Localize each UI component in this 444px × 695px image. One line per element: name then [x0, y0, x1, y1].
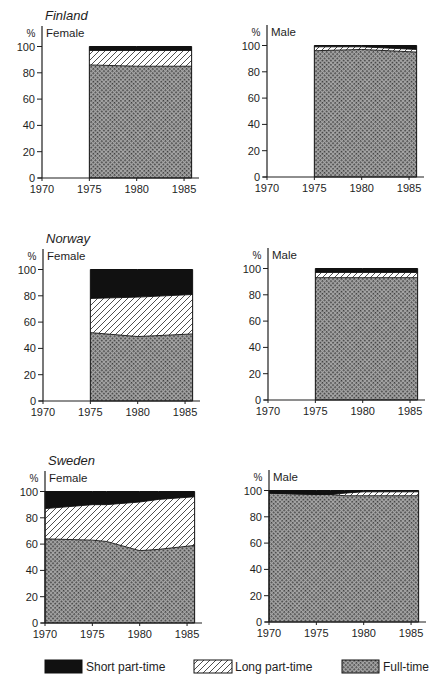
- y-tick-label: 80: [24, 290, 36, 302]
- long-part-time-area: [90, 294, 192, 336]
- x-tick-label: 1975: [78, 406, 102, 418]
- x-tick-label: 1970: [257, 627, 281, 639]
- x-tick-label: 1985: [172, 183, 196, 195]
- y-tick-label: 40: [250, 563, 262, 575]
- x-tick-label: 1985: [398, 405, 422, 417]
- full-time-area: [315, 278, 417, 400]
- x-tick-label: 1980: [127, 628, 151, 640]
- long-part-time-area: [89, 50, 191, 66]
- full-time-area: [314, 49, 416, 177]
- panel-country-title: Finland: [45, 8, 88, 23]
- y-tick-label: 60: [249, 315, 261, 327]
- y-axis-unit: %: [27, 28, 36, 39]
- x-tick-label: 1970: [30, 183, 54, 195]
- x-tick-label: 1980: [351, 627, 375, 639]
- y-tick-label: 80: [248, 66, 260, 78]
- y-tick-label: 40: [26, 564, 38, 576]
- y-tick-label: 60: [24, 316, 36, 328]
- x-tick-label: 1985: [173, 406, 197, 418]
- chart-panels: 0204060801001970197519801985%FemaleFinla…: [17, 8, 426, 640]
- legend-item-full-time: Full-time: [342, 660, 429, 674]
- y-axis-unit: %: [28, 251, 37, 262]
- x-tick-label: 1970: [255, 182, 279, 194]
- panel-subtitle: Male: [271, 26, 296, 38]
- long-part-time-area: [315, 272, 417, 277]
- x-tick-label: 1975: [77, 183, 101, 195]
- panel-subtitle: Male: [273, 471, 298, 483]
- chart-panel-norway-female: 0204060801001970197519801985%FemaleNorwa…: [18, 231, 200, 418]
- panel-subtitle: Female: [49, 472, 87, 484]
- chart-panel-sweden-male: 0204060801001970197519801985%Male: [244, 470, 426, 639]
- y-tick-label: 40: [248, 118, 260, 130]
- y-tick-label: 100: [244, 485, 262, 497]
- y-tick-label: 60: [250, 537, 262, 549]
- x-tick-label: 1975: [304, 627, 328, 639]
- x-tick-label: 1970: [33, 628, 57, 640]
- x-tick-label: 1980: [350, 405, 374, 417]
- legend-label-full-time: Full-time: [383, 660, 429, 674]
- y-tick-label: 20: [23, 146, 35, 158]
- x-tick-label: 1980: [124, 183, 148, 195]
- y-axis-unit: %: [253, 250, 262, 261]
- x-tick-label: 1975: [80, 628, 104, 640]
- y-tick-label: 80: [250, 511, 262, 523]
- short-part-time-swatch: [45, 660, 82, 673]
- x-tick-label: 1985: [399, 627, 423, 639]
- y-tick-label: 80: [26, 512, 38, 524]
- y-axis-unit: %: [30, 473, 39, 484]
- y-tick-label: 80: [23, 67, 35, 79]
- chart-panel-sweden-female: 0204060801001970197519801985%FemaleSwede…: [20, 453, 202, 640]
- panel-country-title: Sweden: [48, 453, 95, 468]
- chart-panel-finland-male: 0204060801001970197519801985%Male: [242, 25, 424, 194]
- x-tick-label: 1970: [31, 406, 55, 418]
- legend-item-short-part-time: Short part-time: [45, 660, 166, 674]
- x-tick-label: 1985: [397, 182, 421, 194]
- y-tick-label: 100: [242, 40, 260, 52]
- y-axis-unit: %: [254, 472, 263, 483]
- y-tick-label: 100: [243, 263, 261, 275]
- y-tick-label: 20: [250, 590, 262, 602]
- x-tick-label: 1985: [175, 628, 199, 640]
- panel-subtitle: Female: [47, 250, 85, 262]
- legend: Short part-time Long part-time Full-time: [45, 660, 429, 674]
- x-tick-label: 1970: [256, 405, 280, 417]
- y-tick-label: 60: [26, 538, 38, 550]
- full-time-area: [90, 333, 192, 401]
- legend-label-short-part-time: Short part-time: [86, 660, 166, 674]
- employment-charts-figure: 0204060801001970197519801985%FemaleFinla…: [0, 0, 444, 695]
- panel-subtitle: Female: [46, 27, 84, 39]
- panel-country-title: Norway: [46, 231, 92, 246]
- legend-label-long-part-time: Long part-time: [235, 660, 313, 674]
- y-tick-label: 40: [249, 341, 261, 353]
- long-part-time-swatch: [194, 660, 232, 673]
- y-tick-label: 20: [248, 145, 260, 157]
- y-tick-label: 100: [20, 486, 38, 498]
- y-tick-label: 60: [23, 93, 35, 105]
- y-tick-label: 20: [26, 591, 38, 603]
- full-time-area: [269, 493, 419, 622]
- chart-panel-norway-male: 0204060801001970197519801985%Male: [243, 248, 425, 417]
- y-tick-label: 40: [24, 342, 36, 354]
- full-time-swatch: [342, 660, 379, 673]
- y-tick-label: 60: [248, 92, 260, 104]
- y-tick-label: 20: [249, 368, 261, 380]
- y-axis-unit: %: [252, 27, 261, 38]
- y-tick-label: 20: [24, 369, 36, 381]
- short-part-time-area: [315, 269, 417, 273]
- y-tick-label: 40: [23, 119, 35, 131]
- panel-subtitle: Male: [272, 249, 297, 261]
- y-tick-label: 80: [249, 289, 261, 301]
- legend-item-long-part-time: Long part-time: [194, 660, 313, 674]
- full-time-area: [89, 65, 191, 178]
- y-tick-label: 100: [18, 264, 36, 276]
- x-tick-label: 1980: [349, 182, 373, 194]
- short-part-time-area: [89, 47, 191, 51]
- y-tick-label: 100: [17, 41, 35, 53]
- x-tick-label: 1980: [125, 406, 149, 418]
- full-time-area: [45, 539, 195, 623]
- short-part-time-area: [90, 270, 192, 299]
- x-tick-label: 1975: [302, 182, 326, 194]
- chart-panel-finland-female: 0204060801001970197519801985%FemaleFinla…: [17, 8, 199, 195]
- x-tick-label: 1975: [303, 405, 327, 417]
